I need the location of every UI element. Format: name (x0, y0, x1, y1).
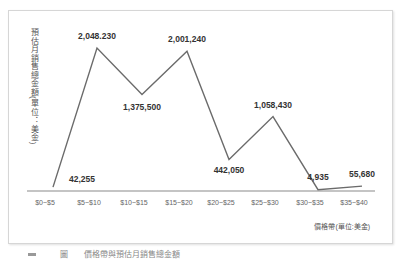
data-label: 442,050 (214, 165, 245, 175)
x-tick-label: $30~$35 (296, 199, 324, 206)
figure-caption: 圖 價格帶與預估月銷售總金額 (28, 248, 180, 259)
x-tick-label: $0~$5 (35, 199, 55, 206)
x-tick-label: $10~$15 (120, 199, 148, 206)
caption-text: 圖 價格帶與預估月銷售總金額 (60, 250, 180, 259)
x-axis-title: 價格帶(單位:美金) (314, 221, 370, 231)
series-line (53, 48, 362, 190)
data-label: 2,001,240 (168, 34, 206, 44)
data-label: 1,375,500 (123, 102, 161, 112)
caption-marker (28, 253, 36, 256)
x-tick-label: $25~$30 (251, 199, 279, 206)
data-label: 42,255 (69, 174, 95, 184)
data-label: 4,935 (307, 172, 329, 182)
x-tick-labels: $0~$5$5~$10$10~$15$15~$20$20~$25$25~$30$… (35, 199, 368, 206)
x-tick-label: $15~$20 (165, 199, 193, 206)
data-label: 55,680 (349, 169, 375, 179)
x-tick-label: $20~$25 (207, 199, 235, 206)
y-axis-title: 預估月銷售總金額(單位：美金) (29, 28, 38, 145)
data-label: 1,058,430 (254, 100, 292, 110)
x-tick-label: $5~$10 (77, 199, 101, 206)
x-tick-label: $35~$40 (340, 199, 368, 206)
data-labels: 42,2552,048.2301,375,5002,001,240442,050… (69, 31, 375, 184)
data-label: 2,048.230 (78, 31, 116, 41)
